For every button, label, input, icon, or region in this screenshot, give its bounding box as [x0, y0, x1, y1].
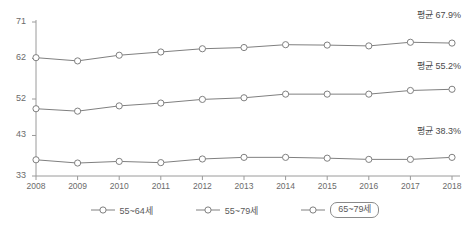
legend-label: 55~79세 — [225, 204, 258, 217]
data-point-marker — [407, 39, 413, 45]
data-point-marker — [33, 106, 39, 112]
y-axis-tick-label: 43 — [6, 130, 26, 139]
chart-series — [33, 39, 455, 166]
x-axis-tick-label: 2015 — [307, 182, 347, 191]
y-axis-tick-label: 71 — [6, 17, 26, 26]
x-axis-tick-label: 2012 — [182, 182, 222, 191]
legend-label: 65~79세 — [330, 202, 379, 218]
x-axis-tick-label: 2014 — [266, 182, 306, 191]
data-point-marker — [158, 100, 164, 106]
x-axis-tick-label: 2008 — [16, 182, 56, 191]
x-axis-tick-label: 2017 — [390, 182, 430, 191]
data-point-marker — [366, 156, 372, 162]
data-point-marker — [75, 108, 81, 114]
data-point-marker — [241, 154, 247, 160]
data-point-marker — [283, 154, 289, 160]
data-point-marker — [199, 156, 205, 162]
data-point-marker — [449, 154, 455, 160]
data-point-marker — [75, 160, 81, 166]
x-axis-tick-label: 2016 — [349, 182, 389, 191]
chart-legend: 55~64세55~79세65~79세 — [0, 196, 469, 224]
data-point-marker — [283, 42, 289, 48]
data-point-marker — [366, 91, 372, 97]
data-point-marker — [407, 87, 413, 93]
data-point-marker — [158, 160, 164, 166]
line-chart-plot — [0, 0, 469, 227]
data-point-marker — [241, 44, 247, 50]
data-point-marker — [116, 52, 122, 58]
x-axis-tick-label: 2011 — [141, 182, 181, 191]
legend-marker-icon — [90, 205, 116, 215]
x-axis-tick-label: 2013 — [224, 182, 264, 191]
data-point-marker — [33, 55, 39, 61]
legend-item[interactable]: 55~79세 — [195, 204, 258, 217]
chart-container: 3343526271 20082009201020112012201320142… — [0, 0, 469, 227]
data-point-marker — [324, 42, 330, 48]
x-axis-tick-label: 2010 — [99, 182, 139, 191]
data-point-marker — [116, 103, 122, 109]
annotation-average-top: 평균 67.9% — [417, 8, 461, 21]
y-axis-tick-label: 62 — [6, 53, 26, 62]
data-point-marker — [33, 157, 39, 163]
x-axis-tick-label: 2018 — [432, 182, 469, 191]
y-axis-tick-label: 52 — [6, 94, 26, 103]
data-point-marker — [366, 43, 372, 49]
data-point-marker — [75, 58, 81, 64]
legend-item[interactable]: 55~64세 — [90, 204, 153, 217]
data-point-marker — [324, 155, 330, 161]
data-point-marker — [324, 91, 330, 97]
data-point-marker — [158, 49, 164, 55]
data-point-marker — [199, 96, 205, 102]
legend-marker-icon — [300, 205, 326, 215]
annotation-average-middle: 평균 55.2% — [417, 59, 461, 72]
data-point-marker — [116, 158, 122, 164]
y-axis-tick-label: 33 — [6, 171, 26, 180]
x-axis-tick-label: 2009 — [58, 182, 98, 191]
data-point-marker — [449, 86, 455, 92]
data-point-marker — [241, 95, 247, 101]
data-point-marker — [199, 46, 205, 52]
data-point-marker — [407, 156, 413, 162]
data-point-marker — [449, 40, 455, 46]
legend-label: 55~64세 — [120, 204, 153, 217]
legend-marker-icon — [195, 205, 221, 215]
data-point-marker — [283, 91, 289, 97]
annotation-average-bottom: 평균 38.3% — [417, 124, 461, 137]
legend-item[interactable]: 65~79세 — [300, 202, 379, 218]
